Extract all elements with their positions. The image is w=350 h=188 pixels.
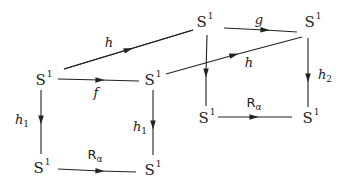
diagram-arrows (0, 0, 350, 188)
label-h-diag: h (245, 56, 253, 69)
label-h1-left: h1 (15, 113, 29, 130)
label-h1-right: h1 (133, 120, 147, 137)
node-top-right: S1 (304, 14, 321, 30)
label-r-alpha-right: Rα (247, 96, 262, 113)
label-r-alpha-bottom: Rα (88, 148, 103, 165)
arrow-top-mid-down (206, 35, 207, 106)
arrow-h-diag (166, 37, 302, 74)
node-low-mid: S1 (198, 110, 215, 126)
label-f: f (94, 86, 99, 99)
arrow-h-top-head (64, 30, 193, 69)
label-h-top: h (105, 36, 113, 49)
node-mid-center: S1 (144, 72, 161, 88)
label-h2: h2 (318, 68, 332, 85)
node-bot-center: S1 (144, 162, 161, 178)
node-bot-left: S1 (33, 160, 50, 176)
arrow-r-alpha-bottom (58, 169, 136, 172)
label-g: g (255, 13, 263, 26)
arrow-g (224, 28, 297, 32)
node-top-mid: S1 (196, 14, 213, 30)
node-low-right: S1 (302, 110, 319, 126)
arrow-f (58, 79, 139, 81)
node-mid-left: S1 (35, 72, 52, 88)
